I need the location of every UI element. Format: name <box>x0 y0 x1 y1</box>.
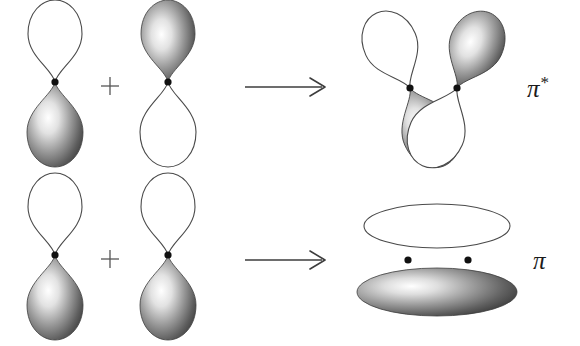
nucleus-dot-right <box>464 256 471 263</box>
row-antibonding <box>27 0 516 177</box>
reaction-arrow-bottom <box>245 251 325 269</box>
nucleus-dot <box>164 78 171 85</box>
p-orbital-reactant-4 <box>140 173 196 340</box>
nucleus-dot <box>453 84 460 91</box>
lobe-light-top <box>352 2 435 99</box>
p-orbital-reactant-2 <box>140 0 196 167</box>
pi-star-superscript: * <box>541 73 550 92</box>
pi-star-label: π* <box>527 74 549 101</box>
lobe-light-bottom <box>397 77 483 177</box>
p-orbital-reactant-1 <box>27 0 83 167</box>
nucleus-dot <box>164 251 171 258</box>
row-bonding <box>27 173 517 340</box>
nucleus-dot <box>51 78 58 85</box>
nucleus-dot <box>406 84 413 91</box>
lobe-dark-top <box>432 2 515 99</box>
lobe-light-bottom <box>140 82 196 167</box>
plus-operator-top <box>101 77 119 95</box>
lobe-light-top <box>28 0 82 82</box>
pi-merged-orbital <box>357 204 517 316</box>
nucleus-dot <box>51 251 58 258</box>
orbital-diagram <box>0 0 580 346</box>
lobe-dark-bottom-ellipse <box>357 268 517 316</box>
p-orbital-reactant-3 <box>27 173 83 340</box>
lobe-light-top <box>28 173 82 255</box>
lobe-dark-bottom <box>27 255 83 340</box>
lobe-dark-bottom <box>140 255 196 340</box>
lobe-dark-top <box>141 0 195 82</box>
nucleus-dot-left <box>404 256 411 263</box>
lobe-dark-bottom <box>27 82 83 167</box>
pi-label: π <box>533 248 546 273</box>
pi-star-glyph: π <box>527 75 540 102</box>
plus-operator-bottom <box>101 250 119 268</box>
pi-star-orbital-right <box>397 2 516 177</box>
reaction-arrow-top <box>245 78 325 96</box>
pi-glyph: π <box>533 247 546 274</box>
lobe-light-top-ellipse <box>364 204 510 248</box>
lobe-light-top <box>141 173 195 255</box>
